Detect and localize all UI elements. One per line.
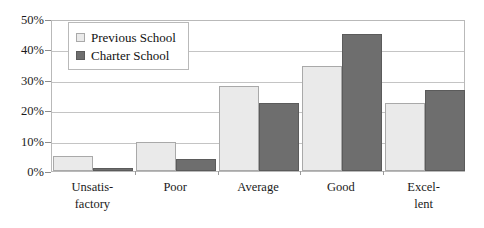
bar-group (300, 21, 383, 171)
bar-charter-school (259, 103, 299, 171)
x-axis-category-label: Poor (134, 179, 217, 196)
legend-entry-previous-school: Previous School (76, 28, 176, 46)
dark-square-swatch-icon (76, 51, 85, 60)
light-square-swatch-icon (76, 33, 85, 42)
legend-entry-charter-school: Charter School (76, 46, 176, 64)
x-axis-label-line: Good (299, 179, 382, 196)
x-axis-tick-mark (300, 171, 301, 175)
x-axis-tick-mark (218, 171, 219, 175)
y-axis-tick-label: 0% (0, 166, 44, 179)
y-axis-tick-mark (45, 172, 51, 173)
x-axis-tick-mark (383, 171, 384, 175)
bar-charter-school (342, 34, 382, 171)
x-axis-category-label: Excel-lent (382, 179, 465, 213)
bar-previous-school (136, 142, 176, 171)
bar-group (383, 21, 466, 171)
bar-group (218, 21, 301, 171)
legend-label-charter-school: Charter School (91, 49, 169, 62)
x-axis-category-label: Good (299, 179, 382, 196)
x-axis-category-label: Unsatis-factory (51, 179, 134, 213)
x-axis-label-line: Unsatis- (51, 179, 134, 196)
bar-previous-school (219, 86, 259, 171)
x-axis-label-line: factory (51, 196, 134, 213)
chart-legend: Previous School Charter School (68, 22, 189, 70)
bar-previous-school (302, 66, 342, 171)
x-axis-label-line: Poor (134, 179, 217, 196)
y-axis-tick-label: 10% (0, 136, 44, 149)
x-axis-category-label: Average (217, 179, 300, 196)
x-axis-label-line: Average (217, 179, 300, 196)
x-axis-label-line: lent (382, 196, 465, 213)
x-axis-tick-mark (135, 171, 136, 175)
y-axis-tick-label: 30% (0, 75, 44, 88)
y-axis-tick-label: 50% (0, 14, 44, 27)
bar-charter-school (176, 159, 216, 171)
bar-previous-school (385, 103, 425, 171)
y-axis-tick-label: 40% (0, 44, 44, 57)
grouped-bar-chart: 0%10%20%30%40%50% Previous School Charte… (0, 0, 484, 228)
bar-charter-school (425, 90, 465, 171)
x-axis-label-line: Excel- (382, 179, 465, 196)
bar-charter-school (93, 168, 133, 171)
legend-label-previous-school: Previous School (91, 31, 176, 44)
y-axis-tick-label: 20% (0, 105, 44, 118)
bar-previous-school (53, 156, 93, 171)
